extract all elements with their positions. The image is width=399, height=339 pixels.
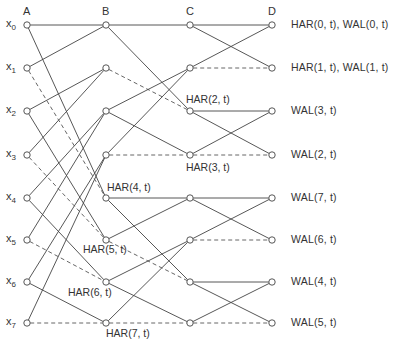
output-label-5: WAL(6, t) [291,233,337,245]
node-b7 [103,320,109,326]
node-c1 [187,65,193,71]
input-label-x4: x4 [6,190,16,205]
output-label-4: WAL(7, t) [291,191,337,203]
node-c0 [187,22,193,28]
output-label-2: WAL(3, t) [291,104,337,116]
input-subscript: 1 [12,66,16,75]
column-label-b: B [102,5,109,17]
node-a0 [24,22,30,28]
node-c2 [187,108,193,114]
node-d3 [269,152,275,158]
node-a5 [24,237,30,243]
node-b3 [103,152,109,158]
output-label-7: WAL(5, t) [291,316,337,328]
node-a4 [24,195,30,201]
node-b1 [103,65,109,71]
haar-label-5: HAR(5, t) [83,243,127,255]
node-a2 [24,108,30,114]
input-label-x0: x0 [6,17,16,32]
input-subscript: 5 [12,238,16,247]
haar-label-7: HAR(7, t) [106,327,150,339]
edge-solid [29,200,104,279]
input-subscript: 0 [12,23,16,32]
node-b0 [103,22,109,28]
edge-solid [108,27,188,108]
input-subscript: 4 [12,196,16,205]
edge-solid [30,70,103,110]
edge-group [28,25,269,323]
node-a1 [24,65,30,71]
input-label-x2: x2 [6,103,16,118]
node-d4 [269,195,275,201]
node-d2 [269,108,275,114]
input-label-x1: x1 [6,60,16,75]
output-label-6: WAL(4, t) [291,275,337,287]
node-c4 [187,195,193,201]
column-label-c: C [186,5,194,17]
edge-solid [109,283,187,321]
node-c5 [187,237,193,243]
edge-solid [28,28,104,195]
haar-label-4: HAR(4, t) [107,181,151,193]
node-a3 [24,152,30,158]
node-d1 [269,65,275,71]
edge-solid [108,200,187,279]
input-label-x3: x3 [6,147,16,162]
output-label-3: WAL(2, t) [291,148,337,160]
node-c7 [187,320,193,326]
node-b2 [103,108,109,114]
edge-solid [30,27,103,67]
edge-solid [109,112,187,153]
haar-label-6: HAR(6, t) [68,286,112,298]
edge-solid [108,70,188,152]
column-label-a: A [23,5,30,17]
node-d0 [269,22,275,28]
input-label-x5: x5 [6,232,16,247]
node-d6 [269,279,275,285]
node-a6 [24,279,30,285]
column-label-d: D [268,5,276,17]
haar-label-3: HAR(3, t) [186,161,230,173]
node-b4 [103,195,109,201]
input-subscript: 2 [12,109,16,118]
output-label-0: HAR(0, t), WAL(0, t) [291,18,389,30]
input-label-x7: x7 [6,315,16,330]
node-d7 [269,320,275,326]
node-b6 [103,279,109,285]
node-a7 [24,320,30,326]
node-c6 [187,279,193,285]
input-subscript: 3 [12,153,16,162]
input-subscript: 7 [12,321,16,330]
node-d5 [269,237,275,243]
haar-label-2: HAR(2, t) [186,93,230,105]
output-label-1: HAR(1, t), WAL(1, t) [291,61,389,73]
node-c3 [187,152,193,158]
edge-solid [109,199,187,238]
input-label-x6: x6 [6,274,16,289]
input-subscript: 6 [12,280,16,289]
